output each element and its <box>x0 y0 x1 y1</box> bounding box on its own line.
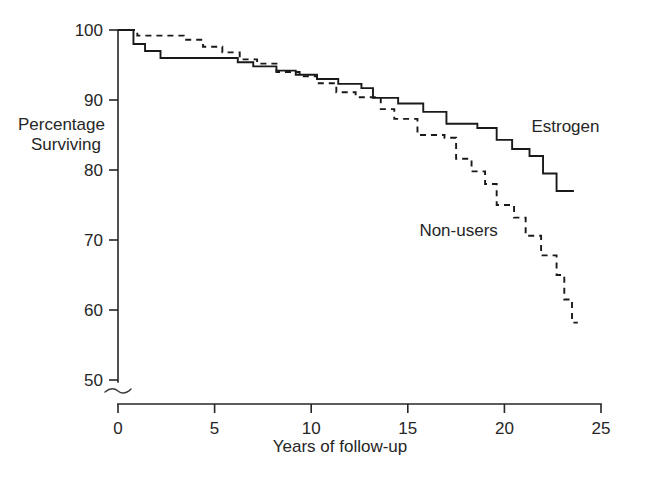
x-tick-label: 20 <box>495 419 514 438</box>
series-label-estrogen: Estrogen <box>531 117 599 136</box>
y-axis-label-line1: Percentage <box>18 115 105 134</box>
y-tick-label: 90 <box>84 91 103 110</box>
y-tick-label: 60 <box>84 301 103 320</box>
y-axis-label-line2: Surviving <box>31 135 101 154</box>
series-line-non-users <box>118 30 578 323</box>
series-line-estrogen <box>118 30 574 191</box>
y-tick-label: 50 <box>84 371 103 390</box>
y-tick-label: 100 <box>75 21 103 40</box>
chart-page: 5060708090100 0510152025 Percentage Surv… <box>0 0 653 478</box>
series-label-non-users: Non-users <box>419 221 497 240</box>
x-tick-label: 0 <box>113 419 122 438</box>
y-tick-group: 5060708090100 <box>75 21 118 390</box>
survival-curve-chart: 5060708090100 0510152025 Percentage Surv… <box>0 0 653 478</box>
axis-break-icon <box>105 389 131 393</box>
x-tick-label: 10 <box>302 419 321 438</box>
y-tick-label: 70 <box>84 231 103 250</box>
x-axis-title: Years of follow-up <box>273 437 408 456</box>
series-annotation-group: EstrogenNon-users <box>419 117 599 240</box>
x-tick-group: 0510152025 <box>113 404 610 438</box>
y-tick-label: 80 <box>84 161 103 180</box>
x-tick-label: 15 <box>398 419 417 438</box>
x-tick-label: 5 <box>210 419 219 438</box>
x-tick-label: 25 <box>592 419 611 438</box>
